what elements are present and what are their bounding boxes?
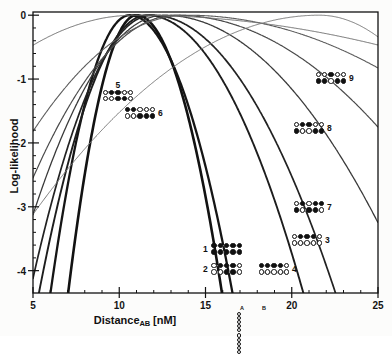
molecule-cluster-2: 2 [203, 263, 243, 275]
cluster-rows [291, 234, 323, 246]
open-node-icon [237, 269, 242, 274]
open-node-icon [109, 96, 114, 101]
y-tick-label: 0 [4, 10, 26, 21]
cluster-rows [293, 201, 325, 213]
cluster-number-label: 4 [292, 265, 297, 274]
open-node-icon [131, 113, 136, 118]
open-node-icon [292, 234, 297, 239]
x-axis-label-text: Distance [94, 314, 140, 326]
axis-legend-glyph: A B [236, 306, 266, 354]
open-node-icon [292, 240, 297, 245]
filled-node-icon [316, 78, 321, 83]
open-node-icon [316, 72, 321, 77]
open-node-icon [125, 113, 130, 118]
filled-node-icon [306, 207, 311, 212]
cluster-row-bottom [258, 269, 290, 274]
axis-legend-rows [236, 312, 266, 354]
x-tick-label: 5 [30, 300, 36, 311]
molecule-cluster-1: 1 [203, 243, 243, 255]
open-node-icon [328, 78, 333, 83]
open-node-icon [122, 90, 127, 95]
cluster-row-bottom [211, 269, 243, 274]
open-node-icon [271, 269, 276, 274]
open-node-icon [211, 263, 216, 268]
open-node-icon [128, 96, 133, 101]
open-node-icon [304, 240, 309, 245]
filled-node-icon [237, 249, 242, 254]
open-node-icon [144, 107, 149, 112]
open-node-icon [294, 201, 299, 206]
filled-node-icon [218, 249, 223, 254]
open-node-icon [300, 128, 305, 133]
cluster-row-bottom [293, 207, 325, 212]
open-node-icon [306, 201, 311, 206]
filled-node-icon [259, 263, 264, 268]
open-node-icon [322, 72, 327, 77]
molecule-cluster-4: 4 [258, 263, 297, 275]
filled-node-icon [115, 96, 120, 101]
y-tick-label: -1 [4, 74, 26, 85]
molecule-cluster-7: 7 [293, 201, 332, 213]
filled-node-icon [230, 249, 235, 254]
filled-node-icon [224, 249, 229, 254]
cluster-rows [211, 263, 243, 275]
cluster-row-top [102, 90, 134, 95]
cluster-rows [211, 243, 243, 255]
open-node-icon [137, 107, 142, 112]
filled-node-icon [278, 263, 283, 268]
open-node-icon [259, 269, 264, 274]
filled-node-icon [230, 263, 235, 268]
x-axis-label-subscript: AB [140, 319, 150, 328]
open-node-icon [298, 240, 303, 245]
cluster-row-bottom [124, 113, 156, 118]
cluster-row-top [124, 107, 156, 112]
cluster-row-bottom [211, 249, 243, 254]
filled-node-icon [294, 128, 299, 133]
cluster-row-bottom [102, 96, 134, 101]
filled-node-icon [237, 243, 242, 248]
cluster-number-label: 5 [116, 81, 121, 90]
open-node-icon [317, 234, 322, 239]
filled-node-icon [304, 234, 309, 239]
cluster-row-bottom [291, 240, 323, 245]
filled-node-icon [218, 243, 223, 248]
cluster-stack: 5 [102, 81, 134, 101]
cluster-number-label: 1 [203, 245, 208, 254]
cluster-rows [293, 122, 325, 134]
filled-node-icon [306, 122, 311, 127]
cluster-row-top [211, 263, 243, 268]
open-node-icon [265, 269, 270, 274]
filled-node-icon [150, 113, 155, 118]
open-node-icon [237, 333, 241, 337]
open-node-icon [306, 128, 311, 133]
open-node-icon [300, 207, 305, 212]
open-node-icon [237, 263, 242, 268]
filled-node-icon [313, 128, 318, 133]
cluster-rows [124, 107, 156, 119]
filled-node-icon [335, 78, 340, 83]
filled-node-icon [131, 107, 136, 112]
open-node-icon [319, 207, 324, 212]
open-node-icon [319, 122, 324, 127]
filled-node-icon [341, 78, 346, 83]
cluster-row-top [315, 72, 347, 77]
x-tick-label: 10 [114, 300, 125, 311]
open-node-icon [237, 328, 241, 332]
y-axis-label: Log-likelihood [8, 96, 20, 216]
open-node-icon [313, 122, 318, 127]
open-node-icon [284, 263, 289, 268]
cluster-row-top [211, 243, 243, 248]
open-node-icon [103, 96, 108, 101]
cluster-number-label: 6 [158, 109, 163, 118]
cluster-row-top [293, 201, 325, 206]
filled-node-icon [224, 243, 229, 248]
cluster-row-bottom [315, 78, 347, 83]
filled-node-icon [300, 201, 305, 206]
filled-node-icon [319, 201, 324, 206]
cluster-rows [315, 72, 347, 84]
x-axis-label: DistanceAB [nM] [0, 314, 270, 328]
filled-node-icon [125, 107, 130, 112]
open-node-icon [103, 90, 108, 95]
y-tick-label: -4 [4, 265, 26, 276]
